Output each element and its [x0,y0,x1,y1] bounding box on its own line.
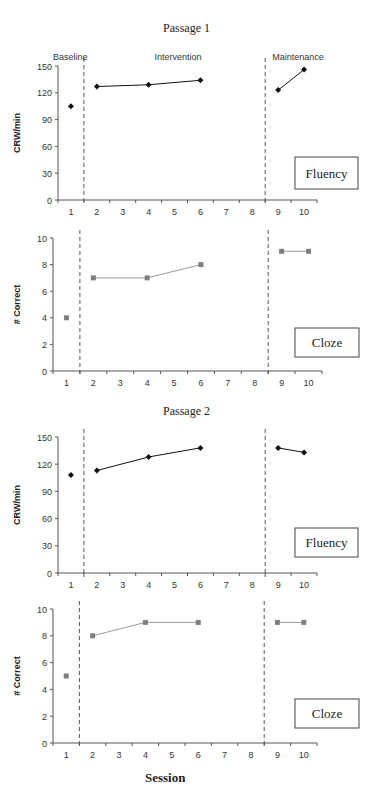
x-tick-label: 2 [90,750,95,760]
passage-2-cloze-chart: 024681012345678910# CorrectCloze [0,0,380,799]
y-tick-label: 6 [42,658,47,668]
x-tick-label: 9 [275,750,280,760]
y-tick-label: 2 [42,712,47,722]
square-marker [275,620,280,625]
x-tick-label: 10 [299,750,309,760]
x-tick-label: 6 [196,750,201,760]
y-tick-label: 10 [37,605,47,615]
y-tick-label: 8 [42,631,47,641]
x-tick-label: 8 [248,750,253,760]
y-tick-label: 0 [42,739,47,749]
square-marker [301,620,306,625]
x-tick-label: 1 [64,750,69,760]
x-tick-label: 5 [169,750,174,760]
y-axis-title: # Correct [12,656,22,696]
square-marker [196,620,201,625]
square-marker [64,674,69,679]
x-tick-label: 4 [143,750,148,760]
square-marker [90,633,95,638]
x-tick-label: 7 [222,750,227,760]
y-tick-label: 4 [42,685,47,695]
figure: Passage 1 Passage 2 Session 030609012015… [0,0,380,799]
x-tick-label: 3 [116,750,121,760]
measure-label: Cloze [312,706,343,721]
square-marker [143,620,148,625]
